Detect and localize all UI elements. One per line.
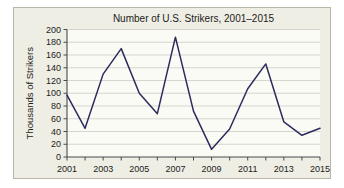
x-tick-label: 2007 — [165, 164, 185, 174]
y-tick-label: 180 — [46, 37, 61, 47]
y-tick-label: 40 — [51, 127, 61, 137]
y-tick-label: 20 — [51, 139, 61, 149]
x-tick-label: 2001 — [57, 164, 77, 174]
y-axis-title: Thousands of Strikers — [24, 47, 35, 140]
x-tick-label: 2009 — [202, 164, 222, 174]
y-tick-label: 100 — [46, 88, 61, 98]
y-tick-label: 120 — [46, 76, 61, 86]
y-tick-label: 60 — [51, 114, 61, 124]
y-tick-label: 140 — [46, 63, 61, 73]
y-axis-tick-labels: 200180160140120100806040200 — [46, 25, 61, 163]
y-tick-label: 160 — [46, 50, 61, 60]
x-tick-label: 2013 — [274, 164, 294, 174]
y-tick-label: 0 — [56, 152, 61, 162]
x-tick-label: 2003 — [93, 164, 113, 174]
y-tick-label: 80 — [51, 101, 61, 111]
chart-figure: 200180160140120100806040200 200120032005… — [0, 0, 344, 188]
chart-title: Number of U.S. Strikers, 2001–2015 — [113, 13, 275, 24]
x-tick-label: 2005 — [129, 164, 149, 174]
x-tick-label: 2011 — [238, 164, 257, 174]
y-tick-label: 200 — [46, 25, 61, 35]
x-tick-label: 2015 — [310, 164, 330, 174]
strikers-line-chart: 200180160140120100806040200 200120032005… — [0, 0, 344, 188]
x-axis-tick-labels: 20012003200520072009201120132015 — [57, 164, 330, 174]
